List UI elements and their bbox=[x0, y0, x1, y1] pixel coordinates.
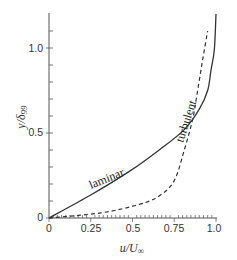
y-axis-title: y/δ99 bbox=[14, 105, 29, 130]
boundary-layer-profile-chart: 0 0.5 1.0 0 0.25 0.5 0.75 1.0 u/U∞ y/δ99… bbox=[0, 0, 237, 260]
x-tick-label-0.25: 0.25 bbox=[81, 222, 102, 234]
turbulent-label: turbulent bbox=[173, 98, 200, 144]
y-tick-label-0: 0 bbox=[37, 211, 43, 223]
x-axis-title: u/U∞ bbox=[120, 241, 144, 256]
x-tick-label-0: 0 bbox=[46, 222, 52, 234]
x-tick-label-0.5: 0.5 bbox=[126, 222, 141, 234]
x-tick-label-1.0: 1.0 bbox=[207, 222, 222, 234]
y-tick-label-1.0: 1.0 bbox=[28, 42, 43, 54]
y-tick-label-0.5: 0.5 bbox=[28, 126, 43, 138]
x-tick-label-0.75: 0.75 bbox=[164, 222, 185, 234]
laminar-label: laminar bbox=[87, 165, 126, 192]
